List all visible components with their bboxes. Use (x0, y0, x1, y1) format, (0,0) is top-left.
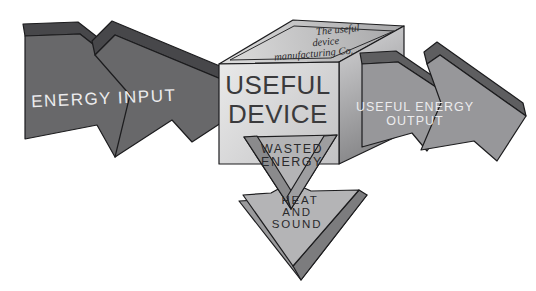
heat-and-sound-label-line-3: SOUND (272, 218, 323, 230)
energy-transfer-diagram: ENERGY INPUT The useful device manufactu… (0, 0, 536, 291)
useful-device-label-line-1: USEFUL (225, 70, 331, 100)
wasted-energy-label-line-2: ENERGY (261, 155, 323, 169)
useful-energy-output-label-line-2: OUTPUT (386, 114, 443, 128)
wasted-energy-label-line-1: WASTED (261, 142, 323, 156)
useful-device-label-line-2: DEVICE (228, 99, 328, 129)
heat-and-sound-label-line-2: AND (282, 206, 312, 218)
heat-and-sound-label-line-1: HEAT (281, 194, 318, 206)
useful-energy-output-label-line-1: USEFUL ENERGY (356, 100, 474, 114)
